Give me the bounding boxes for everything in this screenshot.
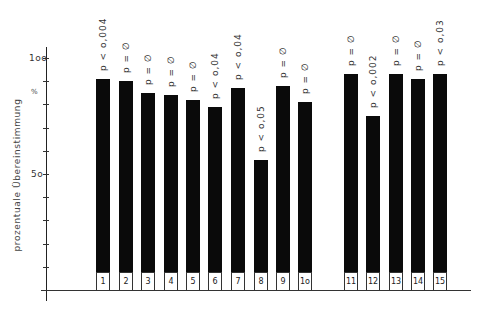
- p-value-annotation: p = ∅: [300, 62, 310, 94]
- y-tick: [43, 151, 49, 152]
- bar: 7: [231, 88, 245, 290]
- bar: 2: [119, 81, 133, 290]
- p-value-annotation: p < o,03: [435, 19, 445, 66]
- y-tick-label-50: 5o: [31, 169, 43, 179]
- y-axis-label: prozentuale Übereinstimmung: [12, 99, 22, 252]
- bar: 9: [276, 86, 290, 290]
- bar-category-label: 14: [411, 272, 425, 290]
- bar-category-label: 4: [164, 272, 178, 290]
- p-value-annotation: p < o,004: [98, 17, 108, 71]
- bar-category-label: 7: [231, 272, 245, 290]
- p-value-annotation: p = ∅: [166, 55, 176, 87]
- y-tick: [43, 128, 49, 129]
- p-value-annotation: p < o,04: [233, 33, 243, 80]
- bar-chart: 1oo 5o % prozentuale Übereinstimmung 1p …: [0, 0, 490, 310]
- p-value-annotation: p = ∅: [278, 46, 288, 78]
- p-value-annotation: p = ∅: [346, 34, 356, 66]
- bar-category-label: 12: [366, 272, 380, 290]
- bar-category-label: 15: [433, 272, 447, 290]
- p-value-annotation: p = ∅: [391, 34, 401, 66]
- percent-unit-marker: %: [31, 88, 38, 96]
- p-value-annotation: p = ∅: [188, 60, 198, 92]
- p-value-annotation: p < o,04: [210, 52, 220, 99]
- x-axis: [41, 290, 471, 291]
- bar-category-label: 5: [186, 272, 200, 290]
- y-tick: [43, 174, 49, 175]
- bar: 11: [344, 74, 358, 290]
- bar-category-label: 2: [119, 272, 133, 290]
- bar: 4: [164, 95, 178, 290]
- p-value-annotation: p < o,05: [256, 105, 266, 152]
- p-value-annotation: p = ∅: [121, 41, 131, 73]
- y-tick: [43, 267, 49, 268]
- bar: 1o: [298, 102, 312, 290]
- bar: 15: [433, 74, 447, 290]
- bar: 3: [141, 93, 155, 290]
- bar-category-label: 9: [276, 272, 290, 290]
- bar-category-label: 13: [389, 272, 403, 290]
- bar: 12: [366, 116, 380, 290]
- bar-category-label: 6: [208, 272, 222, 290]
- bar-category-label: 3: [141, 272, 155, 290]
- bar: 13: [389, 74, 403, 290]
- bar-category-label: 1o: [298, 272, 312, 290]
- y-tick: [43, 220, 49, 221]
- bar: 14: [411, 79, 425, 290]
- p-value-annotation: p = ∅: [143, 53, 153, 85]
- bar: 6: [208, 107, 222, 290]
- y-tick: [43, 81, 49, 82]
- y-tick: [43, 104, 49, 105]
- bar: 8: [254, 160, 268, 290]
- bar-category-label: 8: [254, 272, 268, 290]
- bar: 1: [96, 79, 110, 290]
- y-tick: [43, 244, 49, 245]
- y-tick: [43, 197, 49, 198]
- bar-category-label: 11: [344, 272, 358, 290]
- bar-category-label: 1: [96, 272, 110, 290]
- p-value-annotation: p < o,002: [368, 54, 378, 108]
- p-value-annotation: p = ∅: [413, 39, 423, 71]
- bar: 5: [186, 100, 200, 290]
- y-tick-label-100: 1oo: [29, 53, 47, 63]
